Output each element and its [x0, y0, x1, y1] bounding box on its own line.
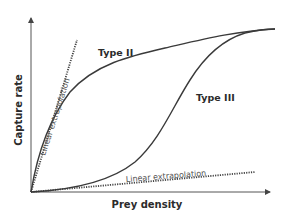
functional-response-chart: Type II Type III Linear extrapolation Li…	[0, 0, 289, 220]
y-axis-label: Capture rate	[13, 74, 24, 146]
linear-extrapolation-steep-label: Linear extrapolation	[38, 77, 71, 157]
type-ii-label: Type II	[98, 47, 133, 58]
type-iii-curve	[31, 29, 275, 192]
linear-extrapolation-shallow-label: Linear extrapolation	[125, 169, 206, 184]
type-iii-label: Type III	[196, 92, 235, 103]
x-axis-label: Prey density	[112, 199, 183, 210]
type-ii-curve	[31, 29, 275, 192]
chart-svg: Type II Type III Linear extrapolation Li…	[0, 0, 289, 220]
